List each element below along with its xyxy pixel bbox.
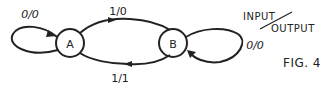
transition-label: 0/0 bbox=[246, 39, 264, 52]
legend-output: OUTPUT bbox=[271, 23, 315, 34]
state-diagram: A B 0/0 1/0 0/0 1/1 INPUT OUTPUT FIG. 4 bbox=[0, 0, 327, 87]
transition-b-a: 1/1 bbox=[80, 53, 170, 85]
legend: INPUT OUTPUT bbox=[243, 11, 315, 34]
transition-a-a: 0/0 bbox=[12, 8, 58, 53]
state-b: B bbox=[159, 29, 187, 57]
state-a: A bbox=[56, 29, 84, 57]
transition-label: 1/1 bbox=[111, 72, 129, 85]
figure-label: FIG. 4 bbox=[283, 56, 321, 70]
legend-input: INPUT bbox=[243, 11, 276, 22]
arrow-head-icon bbox=[124, 61, 132, 67]
transition-a-b: 1/0 bbox=[80, 5, 170, 33]
transition-label: 0/0 bbox=[21, 8, 39, 21]
transition-b-b: 0/0 bbox=[186, 29, 264, 62]
state-b-label: B bbox=[169, 38, 177, 51]
transition-label: 1/0 bbox=[109, 5, 127, 18]
state-a-label: A bbox=[66, 38, 74, 51]
